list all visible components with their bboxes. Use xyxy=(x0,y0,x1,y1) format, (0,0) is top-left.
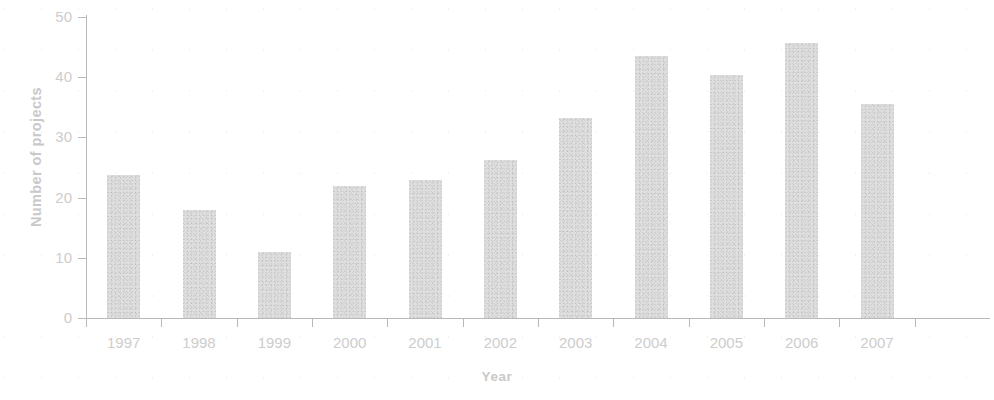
y-tick-label: 20 xyxy=(24,190,72,206)
x-tick-label: 2006 xyxy=(761,334,843,352)
x-tick-mark xyxy=(764,319,765,327)
x-tick-mark xyxy=(839,319,840,327)
y-tick-mark xyxy=(78,137,86,138)
x-tick-label: 2003 xyxy=(535,334,617,352)
y-tick-label-text: 20 xyxy=(28,190,72,205)
bar xyxy=(107,175,140,318)
y-tick-mark xyxy=(78,318,86,319)
x-tick-mark xyxy=(689,319,690,327)
y-tick-label: 30 xyxy=(24,129,72,145)
bar xyxy=(258,252,291,318)
bar-chart: Number of projects 01020304050 199719981… xyxy=(0,0,994,400)
bar xyxy=(635,56,668,318)
x-tick-mark xyxy=(237,319,238,327)
y-tick-mark xyxy=(78,198,86,199)
x-axis-title: Year xyxy=(0,369,994,384)
y-tick-label: 10 xyxy=(24,250,72,266)
x-tick-mark xyxy=(613,319,614,327)
y-tick-mark xyxy=(78,258,86,259)
bar xyxy=(861,104,894,318)
y-tick-label-text: 10 xyxy=(28,250,72,265)
x-tick-mark xyxy=(86,319,87,327)
y-tick-label: 0 xyxy=(24,310,72,326)
y-tick-label: 50 xyxy=(24,9,72,25)
x-tick-label: 2000 xyxy=(309,334,391,352)
x-tick-label: 2002 xyxy=(459,334,541,352)
bar xyxy=(559,118,592,318)
bar xyxy=(710,75,743,318)
y-tick-label: 40 xyxy=(24,69,72,85)
bar xyxy=(333,186,366,318)
y-tick-label-text: 50 xyxy=(28,9,72,24)
bar xyxy=(409,180,442,318)
x-tick-label: 1999 xyxy=(233,334,315,352)
x-tick-mark xyxy=(463,319,464,327)
y-tick-label-text: 40 xyxy=(28,69,72,84)
y-tick-mark xyxy=(78,77,86,78)
x-tick-label: 2007 xyxy=(836,334,918,352)
bar xyxy=(183,210,216,318)
x-tick-mark xyxy=(915,319,916,327)
y-axis-line xyxy=(86,15,87,319)
y-tick-mark xyxy=(78,17,86,18)
x-tick-label: 2001 xyxy=(384,334,466,352)
x-tick-mark xyxy=(312,319,313,327)
x-tick-label: 1998 xyxy=(158,334,240,352)
bar xyxy=(785,43,818,318)
x-tick-mark xyxy=(387,319,388,327)
x-tick-label: 2004 xyxy=(610,334,692,352)
bar xyxy=(484,160,517,318)
y-axis-title: Number of projects xyxy=(21,0,51,327)
x-tick-label: 1997 xyxy=(83,334,165,352)
x-tick-mark xyxy=(161,319,162,327)
y-tick-label-text: 0 xyxy=(28,310,72,325)
x-tick-mark xyxy=(538,319,539,327)
x-tick-label: 2005 xyxy=(685,334,767,352)
y-tick-label-text: 30 xyxy=(28,129,72,144)
